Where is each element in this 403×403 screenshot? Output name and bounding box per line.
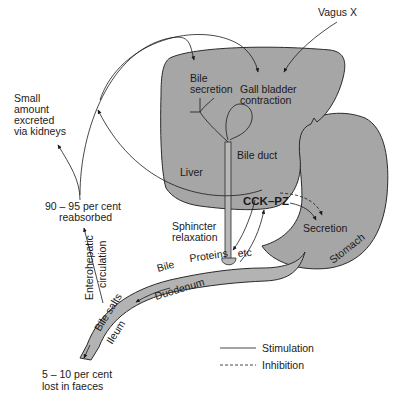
bile-secretion-label-2: secretion xyxy=(190,83,233,95)
cck-pz-label: CCK–PZ xyxy=(243,195,289,207)
legend-inhibition-label: Inhibition xyxy=(262,359,304,371)
gall-bladder-label-2: contraction xyxy=(240,94,292,106)
lost-label-2: lost in faeces xyxy=(42,380,103,392)
bile-duct xyxy=(225,142,231,262)
legend-stimulation-label: Stimulation xyxy=(262,342,314,354)
sphincter-label-2: relaxation xyxy=(172,231,218,243)
bile-duct-label: Bile duct xyxy=(237,149,277,161)
liver-label: Liver xyxy=(180,166,203,178)
etc-label: etc xyxy=(237,246,252,259)
small-amount-label-4: via kidneys xyxy=(14,125,66,137)
legend: Stimulation Inhibition xyxy=(220,342,314,371)
kidney-arrow xyxy=(58,145,80,200)
lost-label: 5 – 10 per cent xyxy=(42,368,112,380)
circulation-label: circulation xyxy=(96,241,108,288)
vagus-label: Vagus X xyxy=(318,6,357,18)
bile-secretion-diagram: Vagus X Bile secretion Gall bladder cont… xyxy=(0,0,403,403)
enterohepatic-label: Enterohepatic xyxy=(83,235,95,300)
secretion-label: Secretion xyxy=(303,222,348,234)
reabsorbed-label-2: reabsorbed xyxy=(59,211,112,223)
bile-gut-label: Bile xyxy=(155,258,175,274)
